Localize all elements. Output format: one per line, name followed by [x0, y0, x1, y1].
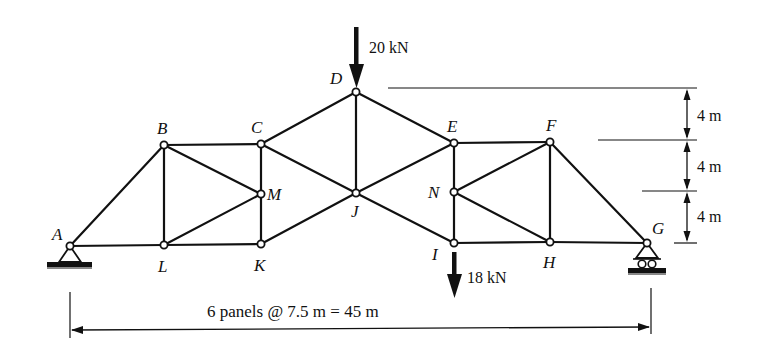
label-L: L [157, 257, 167, 276]
member-BC [164, 144, 261, 145]
joint-B [160, 141, 167, 148]
dim-label-middle: 4 m [697, 158, 722, 175]
vertical-dimensions: 4 m 4 m 4 m [388, 88, 722, 243]
joint-J [352, 189, 359, 196]
label-N: N [427, 183, 441, 202]
member-FG [550, 142, 647, 243]
joint-H [546, 238, 553, 245]
joint-M [257, 190, 264, 197]
joint-G [643, 239, 650, 246]
member-IH [454, 242, 550, 243]
joint-L [160, 241, 167, 248]
joint-C [257, 140, 264, 147]
joint-E [450, 139, 457, 146]
joint-I [450, 239, 457, 246]
member-HG [550, 242, 647, 243]
label-M: M [266, 185, 282, 204]
label-A: A [51, 225, 63, 244]
roller-support-icon [628, 243, 666, 275]
label-D: D [329, 69, 343, 88]
load-D-label: 20 kN [369, 39, 409, 56]
label-C: C [251, 118, 263, 137]
label-H: H [542, 253, 557, 272]
member-DE [356, 92, 454, 143]
label-G: G [652, 219, 664, 238]
joint-K [257, 240, 264, 247]
load-I-label: 18 kN [467, 269, 507, 286]
horizontal-dimension: 6 panels @ 7.5 m = 45 m [70, 288, 651, 338]
member-AL [70, 245, 164, 246]
label-B: B [157, 119, 168, 138]
member-NH [454, 192, 550, 242]
label-K: K [253, 256, 267, 275]
member-LK [164, 244, 261, 245]
joint-N [450, 188, 457, 195]
label-J: J [351, 202, 360, 221]
label-F: F [545, 116, 557, 135]
joint-A [66, 242, 73, 249]
label-E: E [446, 117, 458, 136]
truss-joints [66, 88, 650, 249]
span-label: 6 panels @ 7.5 m = 45 m [207, 302, 379, 321]
member-LM [164, 194, 261, 245]
load-D: 20 kN [349, 27, 409, 88]
member-BM [164, 145, 261, 194]
member-AB [70, 145, 164, 246]
load-I: 18 kN [447, 252, 507, 298]
arrow-down-icon [354, 27, 359, 69]
member-EF [454, 142, 550, 143]
joint-F [546, 138, 553, 145]
member-CD [261, 92, 356, 144]
joint-D [352, 88, 359, 95]
dim-label-bottom: 4 m [697, 208, 722, 225]
truss-diagram: A B C D E F G H I J K L M N 20 kN 18 kN [0, 0, 767, 358]
dim-label-top: 4 m [697, 107, 722, 124]
member-NF [454, 142, 550, 192]
truss-members [70, 92, 647, 246]
label-I: I [431, 245, 439, 264]
